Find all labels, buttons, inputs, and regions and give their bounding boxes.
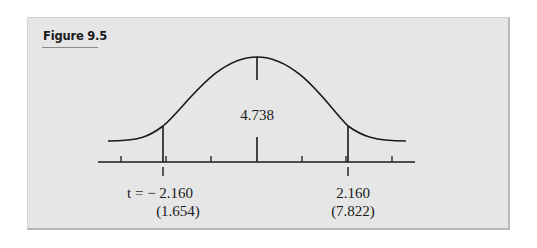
left-t-text: t = − 2.160	[127, 185, 193, 201]
right-value-label: (7.822)	[331, 203, 375, 220]
left-t-label: t = − 2.160	[127, 185, 193, 202]
distribution-plot	[0, 0, 537, 248]
center-value-label: 4.738	[240, 107, 274, 124]
right-t-label: 2.160	[336, 185, 370, 202]
left-value-label: (1.654)	[156, 203, 200, 220]
